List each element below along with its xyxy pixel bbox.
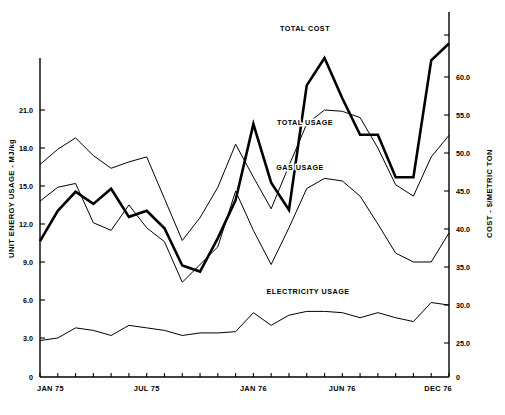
y-tick-label-left: 9.0 (23, 258, 33, 267)
y-tick-label-left: 15.0 (19, 182, 33, 191)
y-tick-label-left: 6.0 (23, 296, 33, 305)
y-axis-left-title: UNIT ENERGY USAGE - MJ/kg (7, 139, 16, 258)
series-label-total-cost: TOTAL COST (280, 24, 330, 33)
y-tick-label-right: 40.0 (456, 225, 470, 234)
energy-cost-line-chart: 03.06.09.012.015.018.021.0 025.030.035.0… (0, 0, 505, 415)
series-line-electricity-usage (40, 303, 449, 341)
y-tick-label-right: 45.0 (456, 187, 470, 196)
x-axis-label-jul-75: JUL 75 (134, 384, 160, 393)
y-axis-right-ticks: 025.030.035.040.045.050.055.060.0 (444, 35, 470, 382)
x-axis-label-dec-76: DEC 76 (424, 384, 452, 393)
x-axis-label-jun-76: JUN 76 (329, 384, 356, 393)
y-tick-label-right: 30.0 (456, 301, 470, 310)
y-tick-label-right: 0 (456, 373, 460, 382)
y-tick-label-left: 12.0 (19, 220, 33, 229)
series-layer (40, 44, 449, 341)
y-tick-label-right: 50.0 (456, 149, 470, 158)
series-label-gas-usage: GAS USAGE (276, 163, 324, 172)
y-tick-label-left: 21.0 (19, 106, 33, 115)
series-line-gas-usage (40, 178, 449, 282)
y-axis-right-title: COST - $/METRIC TON (485, 149, 494, 238)
chart-container: 03.06.09.012.015.018.021.0 025.030.035.0… (0, 0, 505, 415)
x-axis-label-jan-76: JAN 76 (240, 384, 267, 393)
y-tick-label-left: 0 (29, 373, 33, 382)
series-label-electricity-usage: ELECTRICITY USAGE (266, 287, 349, 296)
series-label-total-usage: TOTAL USAGE (277, 118, 333, 127)
y-tick-label-right: 25.0 (456, 339, 470, 348)
y-tick-label-left: 18.0 (19, 144, 33, 153)
x-axis-labels: JAN 75JUL 75JAN 76JUN 76DEC 76 (37, 384, 452, 393)
y-tick-label-right: 60.0 (456, 73, 470, 82)
x-axis-label-jan-75: JAN 75 (37, 384, 64, 393)
y-tick-label-right: 55.0 (456, 111, 470, 120)
series-annotations: TOTAL COSTTOTAL COSTTOTAL USAGETOTAL USA… (266, 24, 349, 296)
y-tick-label-right: 35.0 (456, 263, 470, 272)
series-line-total-usage (40, 110, 449, 240)
series-line-total-cost (40, 44, 449, 272)
y-tick-label-left: 3.0 (23, 334, 33, 343)
